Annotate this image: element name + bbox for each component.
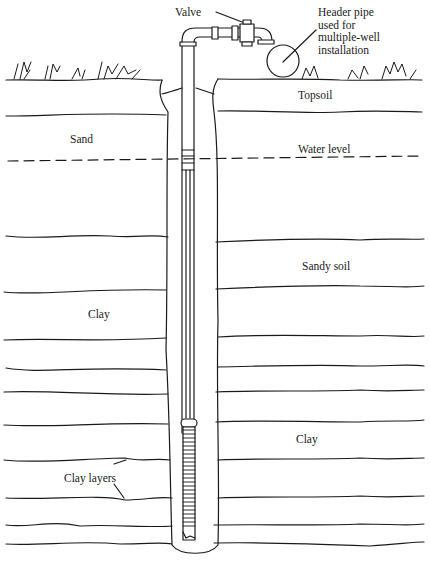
header-pipe-assembly <box>182 26 274 44</box>
label-sandy-soil: Sandy soil <box>302 260 350 273</box>
label-header-pipe: Header pipe used for multiple-well insta… <box>318 6 380 56</box>
label-clay-left: Clay <box>88 308 110 321</box>
soil-layers-right <box>214 111 424 546</box>
label-clay-layers: Clay layers <box>64 472 116 485</box>
label-sand: Sand <box>70 133 93 146</box>
water-level-line <box>8 156 422 161</box>
label-clay-right: Clay <box>296 433 318 446</box>
ground-surface-left <box>6 78 162 80</box>
well-screen <box>181 419 197 540</box>
header-pipe-icon <box>267 30 316 77</box>
ground-surface-right <box>218 79 422 80</box>
grass-icon <box>14 62 416 79</box>
bore-top-contour <box>162 88 214 94</box>
label-valve: Valve <box>175 6 201 19</box>
label-water-level: Water level <box>298 143 350 156</box>
label-topsoil: Topsoil <box>298 89 332 102</box>
well-pipe <box>180 42 196 433</box>
